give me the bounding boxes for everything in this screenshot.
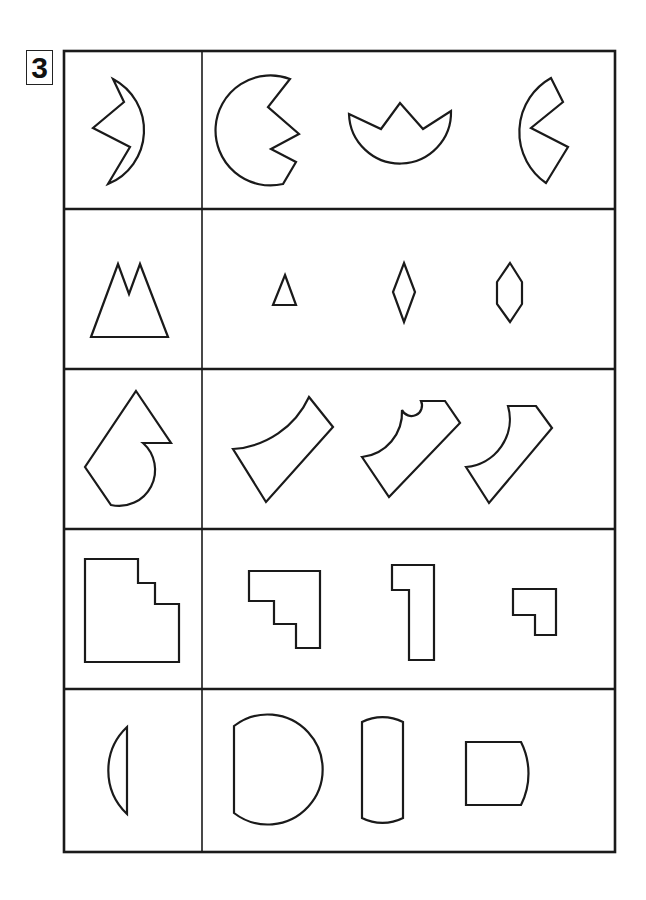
option-row-1-c[interactable]	[519, 78, 568, 183]
option-row-1-a[interactable]	[216, 75, 299, 185]
option-row-3-a[interactable]	[233, 397, 333, 502]
option-row-5-c[interactable]	[466, 742, 528, 805]
option-row-3-c[interactable]	[466, 406, 552, 503]
row-2	[91, 263, 522, 337]
reference-shape-row-4[interactable]	[85, 559, 179, 662]
option-row-4-a[interactable]	[249, 571, 320, 648]
option-row-5-a[interactable]	[234, 715, 323, 825]
option-row-5-b[interactable]	[362, 717, 403, 823]
option-row-3-b[interactable]	[362, 401, 460, 497]
option-row-1-b[interactable]	[349, 103, 451, 164]
reference-shape-row-2[interactable]	[91, 264, 168, 337]
option-row-2-a[interactable]	[273, 275, 296, 305]
reference-shape-row-5[interactable]	[108, 727, 127, 814]
option-row-4-b[interactable]	[392, 565, 434, 660]
reference-shape-row-1[interactable]	[93, 79, 144, 184]
option-row-2-c[interactable]	[497, 263, 522, 322]
puzzle-grid	[0, 0, 646, 900]
option-row-2-b[interactable]	[393, 263, 415, 322]
row-4	[85, 559, 556, 662]
row-3	[85, 391, 552, 506]
option-row-4-c[interactable]	[513, 589, 556, 635]
row-1	[93, 75, 568, 185]
reference-shape-row-3[interactable]	[85, 391, 171, 506]
row-5	[108, 715, 528, 825]
